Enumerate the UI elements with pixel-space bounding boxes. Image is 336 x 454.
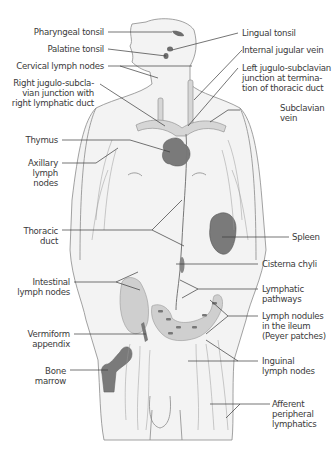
label-intestinal-lymph-nodes: Intestinal lymph nodes xyxy=(17,277,70,297)
cisterna-chyli-shape xyxy=(180,257,185,273)
label-thoracic-duct: Thoracic duct xyxy=(23,226,58,246)
label-lymph-nodules-ileum: Lymph nodules in the ileum (Peyer patche… xyxy=(262,311,326,342)
label-inguinal-lymph-nodes: Inguinal lymph nodes xyxy=(262,356,315,376)
label-afferent-peripheral-lymphatics: Afferent peripheral lymphatics xyxy=(272,399,316,430)
label-subclavian-vein: Subclavian vein xyxy=(280,103,324,123)
label-lingual-tonsil: Lingual tonsil xyxy=(242,28,296,38)
body-silhouette xyxy=(70,19,266,440)
label-cisterna-chyli: Cisterna chyli xyxy=(262,259,317,269)
label-right-jugulo-subclavian-junction: Right jugulo-subcla- vian junction with … xyxy=(12,78,94,109)
label-left-jugulo-subclavian-junction: Left jugulo-subclavian junction at termi… xyxy=(242,63,331,94)
label-axillary-lymph-nodes: Axillary lymph nodes xyxy=(28,158,58,189)
label-lymphatic-pathways: Lymphatic pathways xyxy=(262,284,304,304)
label-palatine-tonsil: Palatine tonsil xyxy=(47,44,104,54)
label-internal-jugular-vein: Internal jugular vein xyxy=(242,45,323,55)
label-cervical-lymph-nodes: Cervical lymph nodes xyxy=(16,61,104,71)
label-thymus: Thymus xyxy=(25,135,58,145)
label-bone-marrow: Bone marrow xyxy=(35,366,66,386)
label-spleen: Spleen xyxy=(292,232,320,242)
label-pharyngeal-tonsil: Pharyngeal tonsil xyxy=(34,27,104,37)
label-vermiform-appendix: Vermiform appendix xyxy=(28,329,70,349)
